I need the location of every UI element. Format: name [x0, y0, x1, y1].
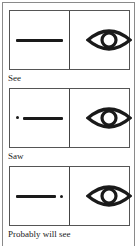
timeline-bar	[23, 117, 63, 120]
panel-probably-will-see	[9, 166, 130, 226]
panel-see	[9, 10, 130, 70]
panel-label-probably-will-see: Probably will see	[8, 229, 71, 239]
eye-icon	[86, 106, 132, 130]
eye-icon	[86, 184, 132, 208]
panel-divider	[69, 89, 70, 147]
timeline-bar	[16, 195, 56, 198]
past-dot	[16, 116, 19, 119]
timeline-bar	[16, 39, 63, 42]
panel-saw	[9, 88, 130, 148]
panel-label-saw: Saw	[8, 151, 24, 161]
panel-label-see: See	[8, 73, 21, 83]
panel-divider	[69, 167, 70, 225]
eye-icon	[86, 28, 132, 52]
future-dot	[60, 195, 63, 198]
panel-divider	[69, 11, 70, 69]
